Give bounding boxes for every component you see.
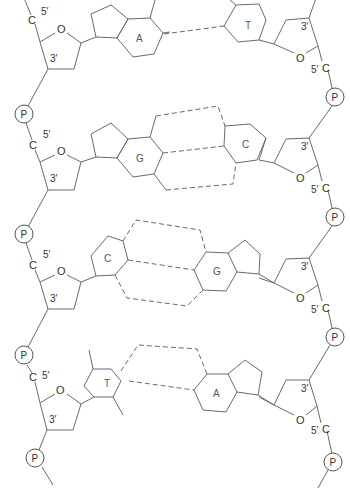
five-prime-label: 5′ [43, 129, 51, 140]
base-label-cytosine: C [104, 253, 111, 264]
left-backbone [24, 0, 96, 485]
three-prime-label: 3′ [301, 383, 309, 394]
three-prime-label: 3′ [50, 293, 58, 304]
carbon-label: C [322, 423, 330, 435]
carbon-label: C [322, 62, 330, 74]
oxygen-label: O [296, 292, 305, 304]
phosphate-group: P [15, 346, 33, 364]
base-pair-T-A: T A [84, 345, 274, 415]
five-prime-label: 5′ [311, 184, 319, 195]
base-label-thymine: T [245, 20, 251, 31]
five-prime-label: 5′ [311, 64, 319, 75]
five-prime-label: 5′ [43, 249, 51, 260]
carbon-label: C [322, 302, 330, 314]
right-phosphates: P P P P [324, 88, 344, 471]
phosphate-label: P [332, 332, 339, 343]
phosphate-group: P [15, 225, 33, 243]
phosphate-label: P [32, 453, 39, 464]
phosphate-group: P [326, 208, 344, 226]
carbon-label: C [29, 259, 37, 271]
base-label-adenine: A [213, 388, 220, 399]
left-phosphates: P P P P [15, 105, 44, 467]
phosphate-label: P [330, 457, 337, 468]
dna-double-helix-diagram: C 5′ O 3′ C 5′ O 3′ C 5′ O 3′ C 5′ O 3′ … [0, 0, 350, 488]
phosphate-label: P [21, 350, 28, 361]
phosphate-label: P [332, 212, 339, 223]
carbon-label: C [322, 182, 330, 194]
oxygen-label: O [56, 384, 65, 396]
three-prime-label: 3′ [49, 414, 57, 425]
three-prime-label: 3′ [301, 261, 309, 272]
oxygen-label: O [296, 52, 305, 64]
three-prime-label: 3′ [50, 173, 58, 184]
five-prime-label: 5′ [311, 425, 319, 436]
oxygen-label: O [57, 265, 66, 277]
five-prime-label: 5′ [41, 6, 49, 17]
base-pair-G-C: G C [91, 106, 266, 190]
adenine-ring [91, 5, 128, 38]
phosphate-group: P [326, 88, 344, 106]
three-prime-label: 3′ [301, 141, 309, 152]
base-label-adenine: A [136, 33, 143, 44]
carbon-label: C [28, 14, 36, 26]
phosphate-label: P [21, 229, 28, 240]
oxygen-label: O [57, 23, 66, 35]
carbon-label: C [29, 139, 37, 151]
phosphate-group: P [324, 453, 342, 471]
base-label-cytosine: C [242, 139, 249, 150]
phosphate-label: P [21, 109, 28, 120]
phosphate-group: P [15, 105, 33, 123]
three-prime-label: 3′ [301, 21, 309, 32]
five-prime-label: 5′ [42, 370, 50, 381]
oxygen-label: O [296, 172, 305, 184]
five-prime-label: 5′ [311, 304, 319, 315]
base-label-guanine: G [136, 153, 144, 164]
oxygen-label: O [57, 145, 66, 157]
oxygen-label: O [296, 414, 305, 426]
carbon-label: C [29, 371, 37, 383]
phosphate-group: P [326, 328, 344, 346]
phosphate-label: P [332, 92, 339, 103]
base-label-guanine: G [213, 266, 221, 277]
base-label-thymine: T [104, 378, 110, 389]
base-pair-A-T: A T [91, 0, 266, 57]
base-pair-C-G: C G [91, 220, 274, 306]
phosphate-group: P [26, 449, 44, 467]
three-prime-label: 3′ [50, 53, 58, 64]
